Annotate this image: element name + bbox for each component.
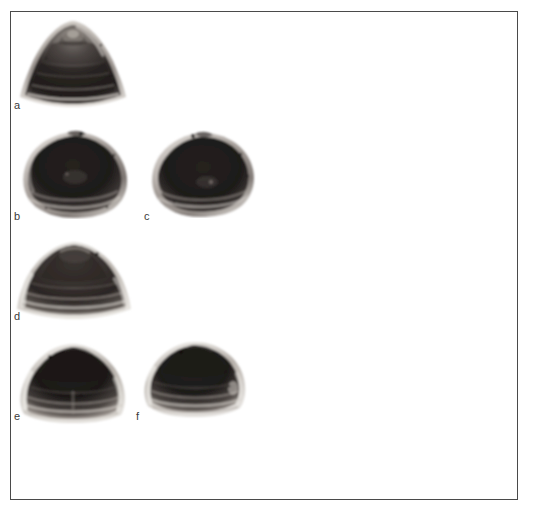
specimen-c-image	[149, 130, 259, 218]
specimen-a-image	[15, 17, 131, 109]
specimen-label-d: d	[14, 311, 20, 322]
figure-plate: a	[0, 0, 534, 523]
specimen-e-image	[17, 341, 131, 425]
specimen-d-image	[15, 239, 133, 321]
specimen-label-a: a	[14, 100, 20, 111]
specimen-f-image	[141, 338, 251, 420]
specimen-label-b: b	[14, 211, 20, 222]
specimen-label-f: f	[136, 411, 139, 422]
plate-frame-border: a	[10, 11, 518, 500]
specimen-b-image	[19, 129, 133, 219]
specimen-label-c: c	[144, 211, 150, 222]
specimen-label-e: e	[14, 411, 20, 422]
